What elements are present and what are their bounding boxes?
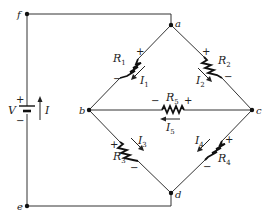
i5-label: I5 — [165, 121, 175, 136]
node-a — [169, 23, 173, 27]
wire-r2-c — [222, 78, 252, 110]
node-b-label: b — [79, 105, 85, 116]
resistor-r4: R4 + − I4 — [194, 134, 233, 172]
i1-label: I1 — [139, 74, 149, 89]
resistor-r3: R3 + − I3 — [110, 134, 147, 173]
voltage-source: V + − I — [8, 94, 50, 126]
r5-label: R5 — [165, 91, 179, 106]
r3-plus: + — [110, 139, 118, 150]
node-c-label: c — [256, 105, 262, 116]
node-d-label: d — [175, 189, 181, 200]
node-a-label: a — [175, 18, 181, 29]
resistor-r5: R5 − + I5 — [151, 91, 192, 136]
r4-minus: − — [203, 161, 211, 172]
node-e — [25, 204, 29, 208]
wire-e-d — [27, 193, 171, 206]
r4-plus: + — [225, 134, 233, 145]
i3-label: I3 — [137, 134, 147, 149]
node-e-label: e — [17, 201, 23, 212]
wires — [27, 14, 252, 206]
wire-a-r2 — [171, 25, 204, 57]
source-minus: − — [16, 115, 24, 126]
r2-label: R2 — [217, 54, 231, 69]
wire-b-r3 — [89, 110, 120, 142]
r2-minus: − — [224, 71, 232, 82]
r5-plus: + — [184, 95, 192, 106]
current-i-label: I — [44, 104, 50, 117]
wire-r3-d — [138, 161, 171, 193]
r1-minus: − — [113, 73, 121, 84]
i2-label: I2 — [195, 74, 205, 89]
node-c — [250, 108, 254, 112]
wire-f-a — [27, 14, 171, 25]
node-f-label: f — [16, 9, 23, 20]
r3-minus: − — [130, 162, 138, 173]
circuit-diagram: V + − I R1 + − I1 R2 + − I2 R5 − + I5 — [0, 0, 272, 215]
r4-label: R4 — [217, 152, 231, 167]
node-d — [169, 191, 173, 195]
current-i-arrowhead-icon — [38, 96, 43, 102]
r5-minus: − — [151, 95, 159, 106]
r1-plus: + — [136, 46, 144, 57]
resistor-r1: R1 + − I1 — [112, 46, 149, 89]
node-f — [25, 12, 29, 16]
i4-label: I4 — [194, 134, 204, 149]
node-b — [87, 108, 91, 112]
circuit-svg: V + − I R1 + − I1 R2 + − I2 R5 − + I5 — [0, 0, 272, 215]
r1-label: R1 — [112, 52, 126, 67]
source-plus: + — [16, 94, 24, 105]
r2-plus: + — [202, 46, 210, 57]
